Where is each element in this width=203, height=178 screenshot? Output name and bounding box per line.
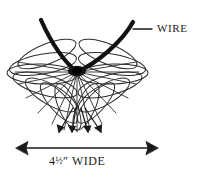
wire-callout-label: WIRE bbox=[157, 23, 188, 34]
width-unit: ″ bbox=[63, 154, 69, 168]
loop-petal bbox=[72, 78, 120, 129]
center-knot bbox=[68, 66, 86, 76]
dimension-arrowhead-right bbox=[146, 142, 158, 155]
dimension-arrowhead-left bbox=[16, 142, 28, 155]
width-fraction: ½ bbox=[56, 156, 64, 166]
width-dimension-label: 4½″ WIDE bbox=[49, 155, 105, 167]
width-word: WIDE bbox=[72, 154, 105, 168]
wire-bow-figure: WIRE 4½″ WIDE bbox=[0, 0, 203, 178]
loop-petals-group bbox=[7, 33, 149, 133]
dimension-arrow bbox=[16, 142, 158, 155]
